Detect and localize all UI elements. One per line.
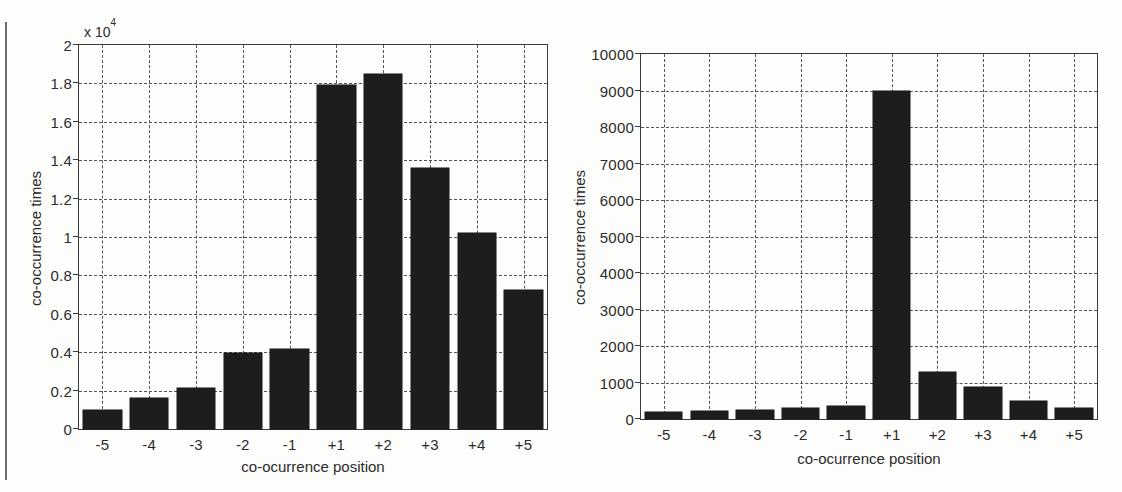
y-axis-exponent-left: x 104 <box>84 22 116 40</box>
gridline-vertical <box>755 54 756 419</box>
gridline-vertical <box>1029 54 1030 419</box>
y-axis-tick-label: 0.2 <box>51 382 79 399</box>
y-axis-tick-label: 4000 <box>600 265 641 282</box>
bar-slot <box>1006 54 1052 419</box>
y-axis-tick-label: 0.8 <box>51 267 79 284</box>
bar <box>1010 401 1047 419</box>
bar-slot <box>960 54 1006 419</box>
gridlines-right <box>641 54 1097 419</box>
gridline-horizontal <box>641 273 1097 274</box>
x-axis-tick-label: -5 <box>657 426 671 443</box>
y-axis-tick-label: 1.6 <box>51 113 79 130</box>
gridline-horizontal <box>641 346 1097 347</box>
gridline-horizontal <box>641 310 1097 311</box>
y-axis-tick-label: 1000 <box>600 374 641 391</box>
y-axis-tick-label: 8000 <box>600 119 641 136</box>
gridline-horizontal <box>79 391 547 392</box>
gridline-horizontal <box>641 383 1097 384</box>
gridline-vertical <box>102 45 103 429</box>
bar <box>177 388 215 429</box>
bar-slot <box>641 54 687 419</box>
x-axis-label-right: co-ocurrence position <box>797 450 940 467</box>
plot-area-left: 21.81.61.41.210.80.60.40.20-5-4-3-2-1+1+… <box>78 44 548 430</box>
bar-slot <box>219 45 266 429</box>
figure-page: x 104 co-occurrence times 21.81.61.41.21… <box>0 0 1122 492</box>
bar-slot <box>126 45 173 429</box>
plot-area-right: 1000090008000700060005000400030002000100… <box>640 53 1098 420</box>
bar-slot <box>732 54 778 419</box>
bar-slot <box>266 45 313 429</box>
bars-layer-left <box>79 45 547 429</box>
gridline-vertical <box>149 45 150 429</box>
x-axis-tick-label: -1 <box>839 426 853 443</box>
y-axis-tick-label: 10000 <box>591 46 641 63</box>
bar <box>504 290 542 429</box>
gridline-horizontal <box>79 122 547 123</box>
gridline-vertical <box>243 45 244 429</box>
bar <box>827 406 864 419</box>
gridline-vertical <box>937 54 938 419</box>
bar <box>691 411 728 419</box>
bar-slot <box>407 45 454 429</box>
bar-slot <box>313 45 360 429</box>
bar-slot <box>869 54 915 419</box>
y-axis-tick-label: 1 <box>63 229 79 246</box>
gridline-horizontal <box>79 199 547 200</box>
gridline-horizontal <box>641 237 1097 238</box>
bar <box>317 85 355 429</box>
gridline-horizontal <box>79 275 547 276</box>
bar <box>873 91 910 420</box>
bar-slot <box>778 54 824 419</box>
gridline-horizontal <box>79 83 547 84</box>
bar <box>736 410 773 419</box>
x-axis-tick-label: -2 <box>794 426 808 443</box>
y-axis-tick-label: 0.6 <box>51 305 79 322</box>
gridline-vertical <box>290 45 291 429</box>
bar <box>83 410 121 429</box>
bar <box>270 349 308 429</box>
y-axis-tick-label: 0 <box>63 421 79 438</box>
x-axis-tick-label: +5 <box>515 436 533 453</box>
x-axis-tick-label: +2 <box>929 426 947 443</box>
gridline-vertical <box>801 54 802 419</box>
y-axis-label-left: co-occurrence times <box>27 169 44 309</box>
y-axis-tick-label: 2 <box>63 37 79 54</box>
bar-slot <box>687 54 733 419</box>
left-chart-figure: x 104 co-occurrence times 21.81.61.41.21… <box>0 0 561 492</box>
x-axis-tick-label: +5 <box>1065 426 1083 443</box>
gridline-vertical <box>892 54 893 419</box>
gridline-vertical <box>709 54 710 419</box>
x-axis-tick-label: -4 <box>703 426 717 443</box>
x-axis-tick-label: -3 <box>748 426 762 443</box>
bar <box>130 398 168 429</box>
bar <box>645 412 682 419</box>
bar-slot <box>500 45 547 429</box>
bar <box>964 387 1001 419</box>
x-axis-tick-label: +4 <box>1020 426 1038 443</box>
gridline-vertical <box>664 54 665 419</box>
gridline-vertical <box>383 45 384 429</box>
x-axis-tick-label: +3 <box>974 426 992 443</box>
y-axis-tick-label: 0 <box>625 411 641 428</box>
x-axis-tick-label: -5 <box>96 436 110 453</box>
y-axis-tick-label: 1.4 <box>51 152 79 169</box>
x-axis-tick-label: -2 <box>236 436 250 453</box>
y-axis-tick-label: 9000 <box>600 82 641 99</box>
bar <box>224 353 262 429</box>
gridline-horizontal <box>641 127 1097 128</box>
bar <box>1055 408 1092 419</box>
y-axis-tick-label: 3000 <box>600 301 641 318</box>
y-axis-tick-label: 7000 <box>600 155 641 172</box>
gridline-vertical <box>846 54 847 419</box>
bar <box>458 233 496 429</box>
bar-slot <box>1051 54 1097 419</box>
x-axis-tick-label: -4 <box>142 436 156 453</box>
y-axis-exponent-mantissa-left: x 10 <box>84 24 110 40</box>
bar-slot <box>79 45 126 429</box>
bar-slot <box>360 45 407 429</box>
y-axis-tick-label: 6000 <box>600 192 641 209</box>
x-axis-tick-label: +1 <box>883 426 901 443</box>
bar <box>364 74 402 429</box>
gridline-horizontal <box>641 164 1097 165</box>
y-axis-tick-label: 2000 <box>600 338 641 355</box>
